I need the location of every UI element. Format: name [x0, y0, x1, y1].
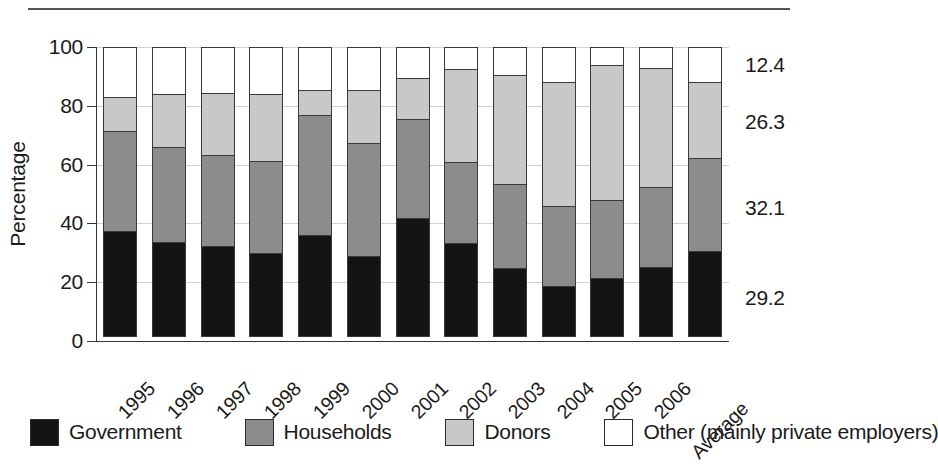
bar-2006[interactable] — [639, 47, 673, 341]
bar-segment-households[interactable] — [444, 162, 478, 244]
y-axis-title: Percentage — [6, 47, 32, 341]
bar-segment-government[interactable] — [444, 243, 478, 337]
x-axis-tick-labels: 1995199619971998199920002001200220032004… — [96, 341, 729, 421]
bar-segment-households[interactable] — [201, 155, 235, 248]
bar-segment-government[interactable] — [347, 256, 381, 337]
annotation-value: 32.1 — [745, 196, 785, 220]
bar-segment-donors[interactable] — [493, 75, 527, 185]
legend-item-donors[interactable]: Donors — [445, 419, 550, 446]
bar-1999[interactable] — [298, 47, 332, 341]
bar-segment-other[interactable] — [249, 47, 283, 96]
y-tick-label: 20 — [60, 270, 83, 294]
bar-segment-donors[interactable] — [152, 94, 186, 148]
bar-segment-households[interactable] — [103, 131, 137, 232]
bar-segment-households[interactable] — [493, 184, 527, 270]
bar-segment-households[interactable] — [590, 200, 624, 279]
bar-segment-other[interactable] — [444, 47, 478, 71]
bar-segment-government[interactable] — [493, 268, 527, 337]
bar-series-group — [96, 47, 729, 341]
bar-segment-households[interactable] — [152, 147, 186, 243]
bar-segment-households[interactable] — [639, 187, 673, 268]
bar-segment-government[interactable] — [298, 235, 332, 337]
y-tick-mark — [87, 165, 96, 166]
bar-segment-government[interactable] — [590, 278, 624, 337]
bar-segment-donors[interactable] — [249, 94, 283, 162]
y-tick-mark — [87, 282, 96, 283]
bar-segment-other[interactable] — [688, 47, 722, 83]
bar-segment-donors[interactable] — [688, 82, 722, 159]
bar-segment-households[interactable] — [396, 119, 430, 219]
bar-segment-other[interactable] — [298, 47, 332, 91]
bar-segment-donors[interactable] — [103, 97, 137, 132]
bar-2001[interactable] — [396, 47, 430, 341]
bar-average[interactable] — [688, 47, 722, 341]
bar-segment-other[interactable] — [152, 47, 186, 96]
bar-segment-government[interactable] — [396, 218, 430, 337]
bar-segment-government[interactable] — [249, 253, 283, 337]
bar-2003[interactable] — [493, 47, 527, 341]
bar-segment-other[interactable] — [590, 47, 624, 66]
bar-segment-government[interactable] — [103, 231, 137, 337]
legend-label: Government — [69, 420, 182, 444]
bar-segment-other[interactable] — [639, 47, 673, 69]
y-tick-label: 0 — [72, 329, 83, 353]
legend-swatch-icon — [30, 419, 59, 446]
top-divider-rule — [28, 8, 790, 10]
legend-label: Donors — [484, 420, 550, 444]
bar-segment-donors[interactable] — [298, 90, 332, 116]
bar-segment-donors[interactable] — [639, 68, 673, 189]
y-axis-line — [96, 47, 97, 341]
annotation-value: 29.2 — [745, 286, 785, 310]
bar-segment-other[interactable] — [103, 47, 137, 98]
annotation-value: 12.4 — [745, 53, 785, 77]
bar-segment-other[interactable] — [396, 47, 430, 79]
bar-segment-other[interactable] — [542, 47, 576, 84]
bar-1996[interactable] — [152, 47, 186, 341]
bar-1998[interactable] — [249, 47, 283, 341]
bar-2005[interactable] — [590, 47, 624, 341]
bar-segment-donors[interactable] — [590, 65, 624, 202]
legend-item-other[interactable]: Other (mainly private employers) — [604, 419, 938, 446]
bar-segment-government[interactable] — [542, 286, 576, 337]
y-tick-mark — [87, 106, 96, 107]
y-tick-mark — [87, 223, 96, 224]
bar-segment-other[interactable] — [201, 47, 235, 94]
bar-segment-government[interactable] — [688, 251, 722, 337]
chart-legend: GovernmentHouseholdsDonorsOther (mainly … — [30, 415, 790, 449]
y-tick-mark — [87, 47, 96, 48]
legend-label: Other (mainly private employers) — [643, 420, 938, 444]
bar-segment-other[interactable] — [493, 47, 527, 76]
annotation-value: 26.3 — [745, 110, 785, 134]
legend-item-households[interactable]: Households — [245, 419, 392, 446]
bar-1997[interactable] — [201, 47, 235, 341]
bar-1995[interactable] — [103, 47, 137, 341]
bar-2004[interactable] — [542, 47, 576, 341]
bar-segment-households[interactable] — [347, 143, 381, 258]
y-tick-label: 80 — [60, 94, 83, 118]
bar-segment-government[interactable] — [201, 246, 235, 337]
y-tick-mark — [87, 341, 96, 342]
y-tick-label: 100 — [49, 35, 83, 59]
y-tick-label: 40 — [60, 211, 83, 235]
legend-swatch-icon — [245, 419, 274, 446]
bar-2000[interactable] — [347, 47, 381, 341]
bar-segment-donors[interactable] — [347, 90, 381, 144]
plot-area: 020406080100 — [96, 47, 729, 341]
bar-segment-other[interactable] — [347, 47, 381, 91]
bar-segment-government[interactable] — [152, 242, 186, 337]
bar-segment-donors[interactable] — [396, 78, 430, 121]
bar-segment-households[interactable] — [249, 161, 283, 255]
legend-label: Households — [284, 420, 392, 444]
bar-segment-government[interactable] — [639, 267, 673, 338]
bar-segment-donors[interactable] — [444, 69, 478, 163]
bar-segment-households[interactable] — [542, 206, 576, 287]
bar-segment-households[interactable] — [688, 158, 722, 252]
bar-2002[interactable] — [444, 47, 478, 341]
bar-segment-households[interactable] — [298, 115, 332, 237]
bar-segment-donors[interactable] — [201, 93, 235, 156]
legend-swatch-icon — [604, 419, 633, 446]
legend-item-government[interactable]: Government — [30, 419, 182, 446]
bar-segment-donors[interactable] — [542, 82, 576, 207]
y-tick-label: 60 — [60, 153, 83, 177]
